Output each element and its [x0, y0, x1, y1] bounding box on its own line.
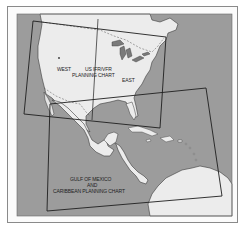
- label-east: EAST: [122, 77, 135, 83]
- label-gulf-line3: CARIBBEAN PLANNING CHART: [53, 188, 125, 194]
- coverage-map: WEST US IFR/VFR PLANNING CHART EAST GULF…: [0, 0, 247, 235]
- location-dot: [58, 57, 60, 59]
- puerto-rico: [178, 140, 182, 142]
- label-west: WEST: [57, 66, 71, 72]
- label-us-chart-line2: PLANNING CHART: [72, 72, 115, 78]
